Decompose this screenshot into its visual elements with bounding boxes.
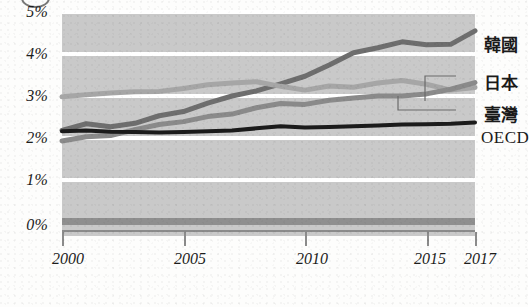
x-tick-2017: [475, 232, 477, 246]
y-tick-label-3: 3%: [26, 87, 48, 105]
baseline-band: [62, 218, 475, 225]
y-axis-labels: 5% 4% 3% 2% 1% 0%: [0, 0, 58, 250]
x-tick-2000: [62, 232, 64, 246]
legend-label-taiwan: 臺灣: [484, 101, 518, 126]
y-tick-label-1: 1%: [26, 171, 48, 189]
x-tick-label-2015: 2015: [414, 250, 446, 268]
x-tick-label-2010: 2010: [296, 250, 328, 268]
legend-label-korea: 韓國: [484, 31, 518, 56]
y-tick-label-0: 0%: [26, 216, 48, 234]
legend-label-oecd: OECD: [481, 128, 529, 148]
x-tick-2015: [427, 232, 429, 246]
y-tick-label-2: 2%: [26, 129, 48, 147]
y-tick-label-5: 5%: [26, 3, 48, 21]
legend-label-japan: 日本: [484, 69, 518, 94]
x-tick-2005: [184, 232, 186, 246]
x-tick-label-2017: 2017: [464, 250, 496, 268]
x-tick-label-2000: 2000: [52, 250, 84, 268]
x-axis-line: [62, 230, 475, 232]
x-tick-2010: [305, 232, 307, 246]
y-tick-label-4: 4%: [26, 45, 48, 63]
x-tick-label-2005: 2005: [174, 250, 206, 268]
